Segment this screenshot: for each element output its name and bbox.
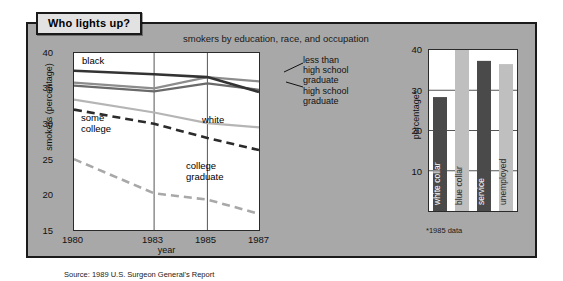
line-chart-xtick-1983: 1983 [142, 234, 163, 245]
line-chart-xtick-1987: 1987 [248, 234, 269, 245]
source-note: Source: 1989 U.S. Surgeon General's Repo… [64, 270, 214, 279]
line-chart-xtick-1985: 1985 [195, 234, 216, 245]
line-chart: smokers (percentage) 40 35 30 25 20 15 [26, 40, 291, 255]
figure-title-tab: Who lights up? [36, 12, 142, 35]
line-chart-ytick-20: 20 [31, 190, 53, 199]
line-chart-svg [74, 53, 259, 230]
label-some-college: some college [81, 113, 111, 134]
callout-lths-line2: high school [303, 65, 349, 75]
callout-hsg-line2: graduate [303, 96, 339, 106]
callout-leader-lines [283, 60, 305, 100]
bar-label-service: service [476, 178, 486, 205]
label-white: white [202, 115, 224, 126]
bar-chart-footnote: *1985 data [426, 226, 462, 235]
bar-chart-svg: white collar blue collar service unemplo… [429, 50, 517, 211]
bar-chart-plot-area: white collar blue collar service unemplo… [428, 49, 518, 212]
callout-lths-line3: graduate [303, 75, 339, 85]
line-chart-x-axis-label: year [73, 245, 260, 255]
bar-chart-y-axis-label: percentage* [411, 65, 421, 165]
callout-lths-line1: less than [303, 55, 339, 65]
bar-label-unemployed: unemployed [498, 158, 508, 205]
line-chart-ytick-40: 40 [31, 48, 53, 57]
line-chart-ytick-15: 15 [31, 226, 53, 235]
callout-hsg-line1: high school [303, 86, 349, 96]
callout-high-school-graduate: high school graduate [303, 86, 349, 106]
label-college-graduate: college graduate [186, 161, 224, 182]
label-college-graduate-line1: college [186, 160, 216, 171]
bar-chart-ytick-10: 10 [398, 167, 422, 176]
line-chart-xtick-1980: 1980 [62, 234, 83, 245]
bar-chart: percentage* 40 30 20 10 white collar blu… [390, 40, 540, 255]
series-college-graduate [74, 159, 259, 214]
label-college-graduate-line2: graduate [186, 171, 224, 182]
bar-chart-ytick-20: 20 [398, 126, 422, 135]
line-chart-ytick-30: 30 [31, 119, 53, 128]
bar-label-blue-collar: blue collar [454, 166, 464, 205]
figure-root: Who lights up? smokers by education, rac… [0, 0, 563, 281]
bar-label-white-collar: white collar [432, 162, 442, 206]
bar-chart-ytick-30: 30 [398, 86, 422, 95]
label-some-college-line2: college [81, 123, 111, 134]
line-chart-plot-area: black white some college college graduat… [73, 52, 260, 231]
label-black: black [82, 56, 104, 67]
line-chart-ytick-25: 25 [31, 155, 53, 164]
line-chart-ytick-35: 35 [31, 83, 53, 92]
callout-less-than-high-school: less than high school graduate [303, 55, 349, 85]
label-some-college-line1: some [81, 112, 104, 123]
bar-chart-ytick-40: 40 [398, 45, 422, 54]
